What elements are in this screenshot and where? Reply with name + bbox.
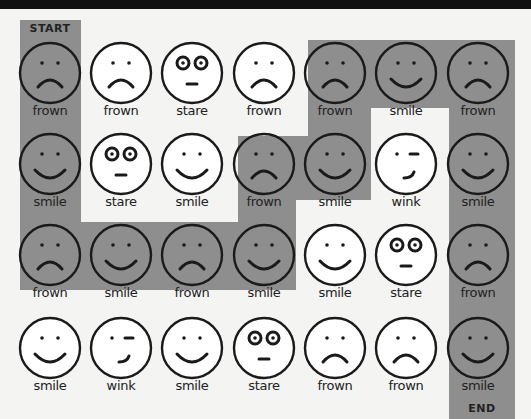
face-cell[interactable]: frown: [371, 316, 441, 406]
face-label: smile: [15, 194, 85, 209]
face-cell[interactable]: smile: [443, 316, 513, 406]
face-cell[interactable]: smile: [300, 132, 370, 222]
frown-face-icon: [160, 223, 224, 287]
face-cell[interactable]: frown: [443, 223, 513, 313]
face-cell[interactable]: smile: [15, 132, 85, 222]
stare-face-icon: [374, 223, 438, 287]
smile-face-icon: [18, 132, 82, 196]
smile-face-icon: [303, 132, 367, 196]
face-label: smile: [443, 194, 513, 209]
face-label: frown: [15, 285, 85, 300]
frown-face-icon: [89, 41, 153, 105]
stare-face-icon: [160, 41, 224, 105]
smile-face-icon: [89, 223, 153, 287]
face-label: frown: [15, 103, 85, 118]
face-cell[interactable]: frown: [229, 41, 299, 131]
face-label: smile: [157, 194, 227, 209]
frown-face-icon: [374, 316, 438, 380]
face-cell[interactable]: smile: [300, 223, 370, 313]
face-label: frown: [443, 103, 513, 118]
face-label: wink: [86, 378, 156, 393]
face-label: frown: [229, 194, 299, 209]
frown-face-icon: [446, 223, 510, 287]
face-cell[interactable]: frown: [229, 132, 299, 222]
face-cell[interactable]: frown: [300, 41, 370, 131]
face-cell[interactable]: smile: [15, 316, 85, 406]
face-label: smile: [157, 378, 227, 393]
face-label: frown: [443, 285, 513, 300]
face-label: frown: [300, 378, 370, 393]
face-cell[interactable]: wink: [371, 132, 441, 222]
face-cell[interactable]: wink: [86, 316, 156, 406]
maze-board: START END frownfrownstarefrownfrownsmile…: [0, 0, 531, 419]
smile-face-icon: [303, 223, 367, 287]
face-label: smile: [15, 378, 85, 393]
face-cell[interactable]: frown: [157, 223, 227, 313]
frown-face-icon: [18, 41, 82, 105]
face-cell[interactable]: stare: [86, 132, 156, 222]
smile-face-icon: [446, 132, 510, 196]
face-label: smile: [300, 194, 370, 209]
wink-face-icon: [89, 316, 153, 380]
face-cell[interactable]: smile: [86, 223, 156, 313]
frown-face-icon: [303, 41, 367, 105]
face-label: smile: [443, 378, 513, 393]
face-cell[interactable]: frown: [300, 316, 370, 406]
face-label: frown: [371, 378, 441, 393]
face-cell[interactable]: frown: [443, 41, 513, 131]
face-label: smile: [371, 103, 441, 118]
frown-face-icon: [232, 132, 296, 196]
face-cell[interactable]: frown: [86, 41, 156, 131]
face-label: frown: [86, 103, 156, 118]
start-marker: START: [20, 22, 80, 35]
stare-face-icon: [89, 132, 153, 196]
face-label: smile: [229, 285, 299, 300]
face-cell[interactable]: smile: [157, 316, 227, 406]
face-label: stare: [157, 103, 227, 118]
face-label: stare: [229, 378, 299, 393]
smile-face-icon: [232, 223, 296, 287]
face-cell[interactable]: frown: [15, 223, 85, 313]
face-cell[interactable]: smile: [371, 41, 441, 131]
smile-face-icon: [446, 316, 510, 380]
face-cell[interactable]: smile: [157, 132, 227, 222]
face-label: frown: [229, 103, 299, 118]
face-cell[interactable]: frown: [15, 41, 85, 131]
smile-face-icon: [374, 41, 438, 105]
frown-face-icon: [18, 223, 82, 287]
stare-face-icon: [232, 316, 296, 380]
face-label: wink: [371, 194, 441, 209]
face-label: frown: [300, 103, 370, 118]
face-label: stare: [86, 194, 156, 209]
face-cell[interactable]: stare: [229, 316, 299, 406]
face-label: frown: [157, 285, 227, 300]
face-label: stare: [371, 285, 441, 300]
frown-face-icon: [446, 41, 510, 105]
face-label: smile: [300, 285, 370, 300]
face-cell[interactable]: stare: [371, 223, 441, 313]
smile-face-icon: [160, 132, 224, 196]
face-cell[interactable]: smile: [443, 132, 513, 222]
face-label: smile: [86, 285, 156, 300]
wink-face-icon: [374, 132, 438, 196]
face-cell[interactable]: stare: [157, 41, 227, 131]
face-cell[interactable]: smile: [229, 223, 299, 313]
smile-face-icon: [18, 316, 82, 380]
frown-face-icon: [303, 316, 367, 380]
smile-face-icon: [160, 316, 224, 380]
frown-face-icon: [232, 41, 296, 105]
